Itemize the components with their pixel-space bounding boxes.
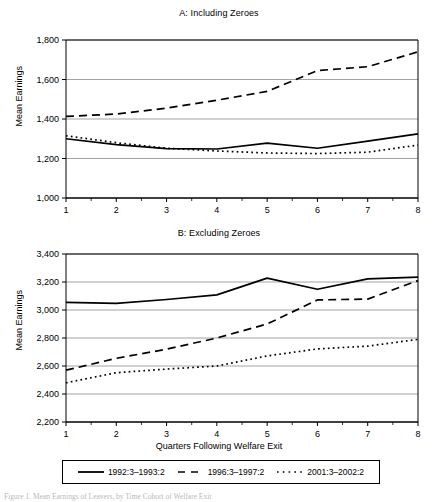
svg-text:3,200: 3,200: [36, 277, 59, 287]
dashed-line-swatch: [178, 468, 204, 476]
legend-item-3: 2001:3–2002:2: [277, 467, 364, 477]
svg-text:8: 8: [415, 429, 420, 439]
svg-text:1,400: 1,400: [36, 114, 59, 124]
svg-text:2: 2: [114, 429, 119, 439]
chart-b-plot: 2,2002,4002,6002,8003,0003,2003,40012345…: [0, 240, 438, 440]
svg-text:5: 5: [265, 205, 270, 215]
svg-text:4: 4: [214, 205, 219, 215]
svg-text:1,200: 1,200: [36, 154, 59, 164]
solid-line-swatch: [78, 468, 104, 476]
legend-label-1: 1992:3–1993:2: [108, 467, 165, 477]
dotted-line-swatch: [277, 468, 303, 476]
svg-text:1,600: 1,600: [36, 75, 59, 85]
legend-item-1: 1992:3–1993:2: [78, 467, 178, 477]
chart-legend: 1992:3–1993:2 1996:3–1997:2 2001:3–2002:…: [62, 460, 380, 484]
svg-text:7: 7: [365, 429, 370, 439]
chart-panel-b: B: Excluding Zeroes Mean Earnings 2,2002…: [0, 228, 438, 456]
svg-text:6: 6: [315, 205, 320, 215]
chart-b-svg: 2,2002,4002,6002,8003,0003,2003,40012345…: [0, 240, 438, 440]
chart-a-plot: 1,0001,2001,4001,6001,80012345678: [0, 22, 438, 218]
svg-text:3,400: 3,400: [36, 249, 59, 259]
chart-a-svg: 1,0001,2001,4001,6001,80012345678: [0, 22, 438, 218]
chart-a-title: A: Including Zeroes: [0, 8, 438, 18]
svg-text:6: 6: [315, 429, 320, 439]
svg-text:3: 3: [164, 429, 169, 439]
svg-text:2,600: 2,600: [36, 361, 59, 371]
svg-text:7: 7: [365, 205, 370, 215]
svg-text:1: 1: [63, 429, 68, 439]
svg-text:2,200: 2,200: [36, 417, 59, 427]
svg-text:8: 8: [415, 205, 420, 215]
svg-text:2: 2: [114, 205, 119, 215]
legend-label-3: 2001:3–2002:2: [307, 467, 364, 477]
svg-text:3: 3: [164, 205, 169, 215]
legend-item-2: 1996:3–1997:2: [178, 467, 278, 477]
svg-text:3,000: 3,000: [36, 305, 59, 315]
svg-text:2,800: 2,800: [36, 333, 59, 343]
svg-text:2,400: 2,400: [36, 389, 59, 399]
svg-text:1: 1: [63, 205, 68, 215]
svg-text:1,800: 1,800: [36, 35, 59, 45]
svg-text:5: 5: [265, 429, 270, 439]
x-axis-title: Quarters Following Welfare Exit: [0, 441, 438, 451]
chart-b-title: B: Excluding Zeroes: [0, 228, 438, 238]
figure-caption: Figure 1. Mean Earnings of Leavers, by T…: [4, 492, 434, 501]
figure-mean-earnings: A: Including Zeroes Mean Earnings 1,0001…: [0, 0, 438, 502]
legend-label-2: 1996:3–1997:2: [208, 467, 265, 477]
svg-text:1,000: 1,000: [36, 193, 59, 203]
svg-text:4: 4: [214, 429, 219, 439]
chart-panel-a: A: Including Zeroes Mean Earnings 1,0001…: [0, 8, 438, 220]
